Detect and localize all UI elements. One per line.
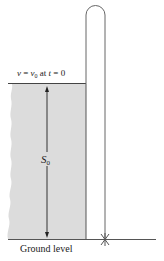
- diagram-canvas: S0 v = v0 at t = 0 Ground level: [0, 0, 164, 261]
- impact-star-icon: [99, 233, 111, 246]
- trajectory-path: [86, 6, 105, 240]
- ground-level-label: Ground level: [20, 243, 73, 254]
- initial-condition-label: v = v0 at t = 0: [17, 68, 66, 79]
